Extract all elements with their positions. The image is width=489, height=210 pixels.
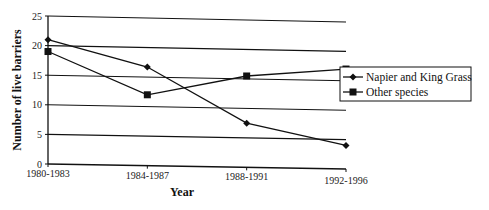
square-marker: [45, 48, 52, 55]
legend-label: Napier and King Grass: [366, 71, 472, 84]
y-tick-label: 20: [32, 40, 42, 51]
x-tick-label: 1988-1991: [225, 171, 268, 182]
y-tick-label: 10: [32, 99, 42, 110]
y-tick-label: 15: [32, 70, 42, 81]
x-tick-label: 1984-1987: [126, 170, 169, 181]
gridline: [48, 164, 346, 169]
x-tick-label: 1992-1996: [324, 175, 367, 186]
square-marker: [350, 89, 357, 96]
series-napier-and-king-grass: [45, 36, 350, 149]
x-axis-ticks: 1980-19831984-19871988-19911992-1996: [26, 164, 367, 186]
x-axis-label: Year: [170, 185, 195, 199]
diamond-marker: [343, 142, 350, 149]
diamond-marker: [144, 64, 151, 71]
gridlines: [48, 16, 346, 169]
y-axis-ticks: 0510152025: [32, 11, 48, 170]
diamond-marker: [243, 120, 250, 127]
gridline: [48, 46, 346, 52]
legend: Napier and King GrassOther species: [340, 67, 472, 101]
square-marker: [144, 91, 151, 98]
y-tick-label: 5: [37, 129, 42, 140]
y-axis-label: Number of live barriers: [10, 29, 24, 151]
legend-label: Other species: [366, 86, 429, 99]
y-tick-label: 25: [32, 11, 42, 22]
data-series: [45, 36, 350, 149]
series-other-species: [45, 48, 350, 98]
gridline: [48, 16, 346, 22]
square-marker: [243, 72, 250, 79]
gridline: [48, 105, 346, 110]
gridline: [48, 75, 346, 81]
line-chart: 0510152025 1980-19831984-19871988-199119…: [0, 0, 489, 210]
x-tick-label: 1980-1983: [26, 168, 69, 179]
diamond-marker: [45, 36, 52, 43]
